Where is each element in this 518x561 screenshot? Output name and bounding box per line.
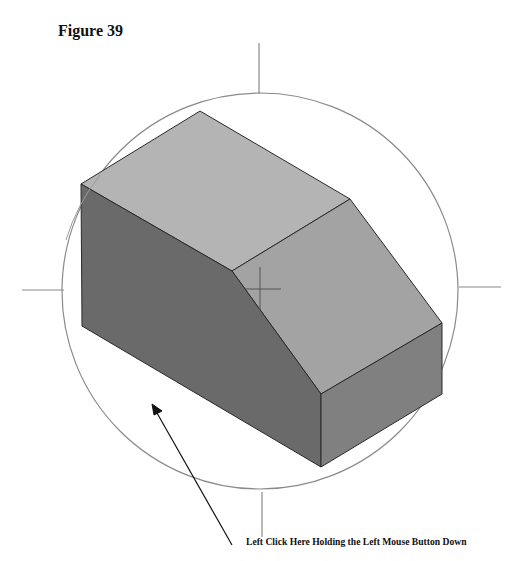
pointer-arrow-shaft xyxy=(157,413,232,545)
isometric-solid-figure[interactable] xyxy=(0,0,518,561)
pointer-arrowhead-icon xyxy=(152,404,162,415)
instruction-caption: Left Click Here Holding the Left Mouse B… xyxy=(246,536,466,547)
